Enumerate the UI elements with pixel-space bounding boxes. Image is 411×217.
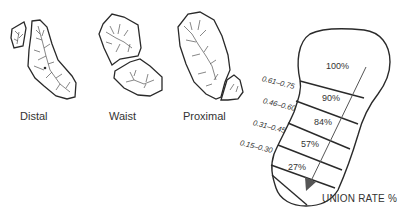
zone-rate-84: 84% — [314, 117, 332, 127]
diagram-canvas — [0, 0, 411, 217]
waist-fracture-illustration — [99, 14, 162, 96]
union-rate-axis-label: UNION RATE % — [322, 193, 397, 204]
zone-rate-100: 100% — [326, 61, 349, 71]
fracture-label-waist: Waist — [109, 110, 136, 122]
fracture-label-distal: Distal — [20, 110, 48, 122]
fracture-label-proximal: Proximal — [183, 110, 226, 122]
zone-rate-27: 27% — [288, 162, 306, 172]
distal-fracture-illustration — [11, 20, 76, 99]
zone-rate-90: 90% — [322, 93, 340, 103]
union-rate-arrow — [305, 67, 366, 191]
proximal-fracture-illustration — [178, 12, 243, 100]
zone-rate-57: 57% — [301, 139, 319, 149]
